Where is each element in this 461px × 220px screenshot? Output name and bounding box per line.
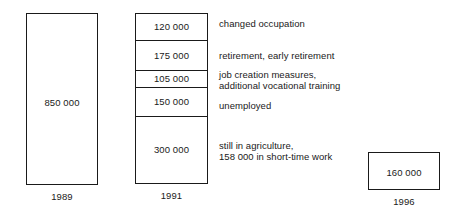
year-label-1996: 1996 <box>368 196 440 207</box>
stacked-bar-diagram: 850 000 1989 120 000 175 000 105 000 150… <box>0 0 461 220</box>
bar-1996: 160 000 <box>368 152 440 190</box>
bar-1989-value: 850 000 <box>27 97 97 108</box>
annotation-job-creation: job creation measures, additional vocati… <box>219 70 340 91</box>
bar-1991-segment-unemployed: 150 000 <box>136 88 207 117</box>
segment-value: 300 000 <box>154 145 189 155</box>
segment-value: 150 000 <box>154 97 189 107</box>
year-label-1991: 1991 <box>135 190 208 201</box>
year-label-1989: 1989 <box>26 191 98 202</box>
segment-value: 105 000 <box>154 74 189 84</box>
bar-1991-segment-changed-occupation: 120 000 <box>136 14 207 41</box>
annotation-unemployed: unemployed <box>219 101 271 112</box>
annotation-still-in-agriculture: still in agriculture, 158 000 in short-t… <box>219 141 332 162</box>
bar-1989: 850 000 <box>26 13 98 185</box>
bar-1991-segment-job-creation: 105 000 <box>136 71 207 88</box>
bar-1991-segment-retirement: 175 000 <box>136 41 207 72</box>
annotation-retirement: retirement, early retirement <box>219 51 334 62</box>
bar-1996-value: 160 000 <box>369 167 439 178</box>
segment-value: 120 000 <box>154 22 189 32</box>
bar-1991-stacked: 120 000 175 000 105 000 150 000 300 000 <box>135 13 208 184</box>
annotation-changed-occupation: changed occupation <box>219 19 305 30</box>
segment-value: 175 000 <box>154 51 189 61</box>
bar-1991-segment-still-in-agriculture: 300 000 <box>136 117 207 183</box>
